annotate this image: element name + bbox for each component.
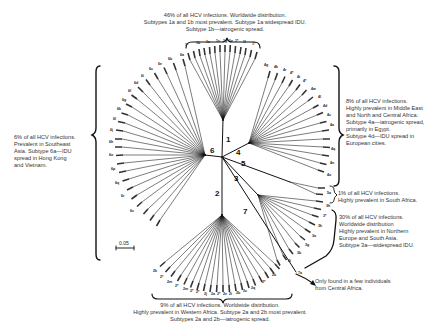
subtype-label: 4w — [311, 87, 316, 91]
subtype-label: 2e — [223, 292, 227, 296]
subtype-label: 3b — [297, 251, 302, 255]
subtype-label: 3g — [305, 243, 309, 247]
subtype-label: 2q — [251, 286, 255, 290]
genotype-label-7: 7 — [243, 207, 248, 216]
genotype-label-4: 4 — [236, 148, 241, 157]
branch-genotype-1 — [222, 120, 223, 157]
subtype-label: 1* — [235, 39, 239, 43]
subtype-label: 2m — [183, 287, 188, 291]
subtype-label: 6c — [149, 67, 153, 71]
subtype-label: 6o — [109, 153, 114, 157]
branch-genotype-6 — [205, 155, 222, 157]
subtype-label: 4k — [274, 65, 278, 69]
scale-bar-label: 0.05 — [119, 240, 129, 246]
subtype-label: 6l — [113, 117, 116, 121]
subtype-label: 2* — [196, 290, 200, 294]
subtype-label: 2b — [236, 291, 241, 295]
subtype-label: 6k — [117, 107, 121, 111]
subtype-label: 4r — [283, 68, 287, 72]
subtype-label: 6a — [180, 53, 185, 57]
subtype-label: 1* — [185, 43, 189, 47]
subtype-label: 5a — [327, 191, 332, 195]
subtype-label: 6p — [111, 167, 116, 171]
scale-bar — [116, 246, 134, 250]
subtype-label: 7a — [298, 271, 303, 275]
subtype-label: 2* — [190, 289, 194, 293]
subtype-label: 3* — [323, 214, 327, 218]
subtype-label: 3h — [326, 204, 330, 208]
genotype-label-1: 1 — [226, 135, 231, 144]
subtype-label: 6i — [141, 74, 144, 78]
subtype-label: 2j — [204, 292, 207, 296]
brace-genotype-4 — [334, 66, 343, 186]
subtype-label: 4* — [290, 71, 294, 75]
subtype-label: 2b — [272, 273, 277, 277]
subtype-label: 4t — [297, 75, 301, 79]
subtype-label: 6h — [109, 140, 113, 144]
subtype-label: 2* — [217, 292, 221, 296]
subtype-label: 6b — [168, 57, 173, 61]
subtype-label: 6r — [121, 194, 125, 198]
subtype-label: 4* — [303, 79, 307, 83]
phylogenetic-tree: 1 2 3 4 5 6 7 1* 1b 1a 1c 1g 1e 1* 1l 1*… — [0, 0, 448, 334]
genotype-label-2: 2 — [215, 189, 220, 198]
branch-genotype-3 — [222, 157, 258, 195]
subtype-label: 1l — [243, 40, 246, 44]
subtype-label: 3i — [288, 259, 291, 263]
clade-genotype-1 — [190, 52, 255, 120]
subtype-label: 4a — [330, 123, 335, 127]
subtype-label: 3k — [318, 224, 322, 228]
subtype-label: 4n — [330, 161, 334, 165]
subtype-label: 2* — [262, 280, 266, 284]
brace-genotype-3 — [305, 210, 336, 268]
genotype-label-6: 6 — [210, 146, 215, 155]
subtype-label: 6d — [134, 81, 138, 85]
subtype-label: 1* — [252, 42, 256, 46]
subtype-label: 2* — [175, 284, 179, 288]
subtype-label: 4c — [327, 113, 331, 117]
clade-genotype-5 — [290, 182, 318, 194]
subtype-label: 3a — [312, 234, 317, 238]
subtype-label: 4l — [318, 95, 321, 99]
clade-genotype-4 — [249, 78, 323, 170]
subtype-label: 6g — [122, 98, 126, 102]
subtype-label: 2a — [211, 292, 216, 296]
subtype-label: 4g — [264, 63, 268, 67]
subtype-label: 2m — [167, 280, 172, 284]
subtype-label: 6j — [110, 128, 113, 132]
subtype-label: 2* — [160, 275, 164, 279]
subtype-label: 6v — [130, 209, 134, 213]
genotype-label-3: 3 — [234, 174, 239, 183]
subtype-label: 6f — [128, 89, 132, 93]
genotype-label-5: 5 — [241, 159, 246, 168]
subtype-label: 1g — [223, 39, 227, 43]
subtype-label: 2c — [243, 289, 247, 293]
subtype-label: 4q — [331, 147, 335, 151]
clade-genotype-3 — [258, 195, 316, 260]
subtype-label: 4d — [323, 104, 327, 108]
subtype-label: 4o — [327, 173, 332, 177]
subtype-label: 6q — [115, 181, 119, 185]
branch-genotype-5 — [222, 157, 290, 182]
subtype-label: 2i — [229, 292, 232, 296]
subtype-label: 1c — [216, 39, 220, 43]
subtype-label: 1e — [229, 39, 233, 43]
subtype-label: 2k — [153, 269, 157, 273]
brace-genotype-6 — [92, 66, 100, 260]
subtype-label: 6e — [158, 62, 162, 66]
brace-genotype-2 — [152, 294, 292, 303]
brace-genotype-5 — [330, 186, 337, 203]
clade-genotype-2 — [165, 215, 275, 285]
